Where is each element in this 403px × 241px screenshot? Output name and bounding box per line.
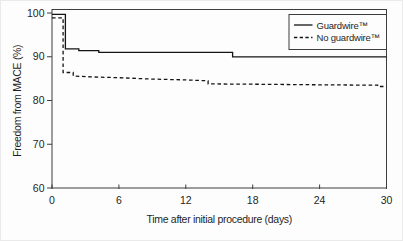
y-tick-label: 80 <box>33 94 45 106</box>
y-tick-label: 100 <box>27 7 45 19</box>
y-axis-label: Freedom from MACE (%) <box>11 45 23 157</box>
y-tick-label: 70 <box>33 138 45 150</box>
x-tick-label: 6 <box>116 194 122 206</box>
legend-label: Guardwire™ <box>317 20 368 31</box>
y-tick-label: 60 <box>33 182 45 194</box>
km-survival-figure: 607080901000612182430Freedom from MACE (… <box>0 0 403 241</box>
x-tick-label: 18 <box>247 194 259 206</box>
legend: Guardwire™No guardwire™ <box>289 15 387 50</box>
x-tick-label: 30 <box>381 194 393 206</box>
y-tick-label: 90 <box>33 50 45 62</box>
x-axis-label: Time after initial procedure (days) <box>146 213 292 225</box>
x-tick-label: 0 <box>49 194 55 206</box>
chart-canvas: 607080901000612182430Freedom from MACE (… <box>1 1 403 241</box>
x-tick-label: 12 <box>180 194 192 206</box>
x-tick-label: 24 <box>314 194 326 206</box>
legend-label: No guardwire™ <box>317 32 380 43</box>
